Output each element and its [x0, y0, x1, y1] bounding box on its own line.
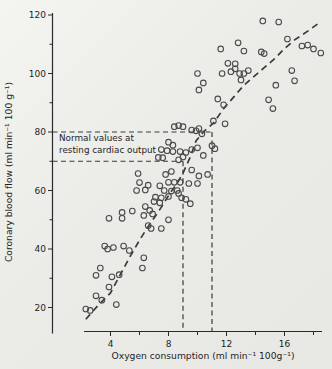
y-tick-label: 120 — [29, 10, 46, 20]
data-point — [141, 255, 147, 261]
data-point — [299, 43, 305, 49]
y-tick-label: 100 — [29, 69, 46, 79]
data-point — [106, 284, 112, 290]
data-point — [235, 40, 241, 46]
data-point — [305, 42, 311, 48]
data-point — [273, 82, 279, 88]
data-point — [201, 80, 207, 86]
data-point — [260, 18, 266, 24]
data-point — [189, 167, 195, 173]
x-tick-label: 4 — [108, 339, 114, 349]
data-point — [219, 71, 225, 77]
data-point — [222, 121, 228, 127]
scatter-chart: Normal values atresting cardiac output20… — [0, 0, 332, 369]
data-point — [266, 97, 272, 103]
data-point — [145, 182, 151, 188]
annotation-line-2: resting cardiac output — [59, 145, 157, 155]
x-tick-label: 8 — [166, 339, 172, 349]
data-point — [246, 68, 252, 74]
data-point — [130, 208, 136, 214]
data-points — [83, 18, 324, 313]
data-point — [196, 87, 202, 93]
data-point — [159, 195, 165, 201]
data-point — [238, 77, 244, 83]
data-point — [186, 181, 192, 187]
data-point — [289, 68, 295, 74]
data-point — [119, 210, 125, 216]
data-point — [164, 148, 170, 154]
data-point — [166, 180, 172, 186]
y-tick-label: 40 — [35, 244, 47, 254]
data-point — [106, 216, 112, 222]
data-point — [163, 172, 169, 178]
data-point — [93, 293, 99, 299]
data-point — [318, 50, 324, 56]
data-point — [157, 183, 163, 189]
figure: Normal values atresting cardiac output20… — [0, 0, 332, 369]
y-tick-label: 80 — [35, 127, 47, 137]
y-tick-label: 60 — [35, 186, 47, 196]
data-point — [98, 265, 104, 271]
data-point — [276, 19, 282, 25]
data-point — [119, 216, 125, 222]
data-point — [111, 245, 117, 251]
data-point — [170, 142, 176, 148]
data-point — [93, 273, 99, 279]
data-point — [270, 106, 276, 112]
data-point — [141, 213, 147, 219]
x-tick-label: 12 — [221, 339, 232, 349]
data-point — [195, 181, 201, 187]
data-point — [205, 172, 211, 178]
annotation-line-1: Normal values at — [59, 133, 134, 143]
data-point — [143, 204, 149, 210]
data-point — [201, 153, 207, 159]
data-point — [127, 248, 133, 254]
data-point — [121, 243, 127, 249]
data-point — [170, 149, 176, 155]
data-point — [241, 48, 247, 54]
data-point — [134, 188, 140, 194]
data-point — [292, 78, 298, 84]
y-axis-title: Coronary blood flow (ml min⁻¹ 100 g⁻¹) — [3, 82, 14, 262]
data-point — [177, 149, 183, 155]
data-point — [188, 201, 194, 207]
data-point — [218, 46, 224, 52]
y-tick-label: 20 — [35, 303, 47, 313]
data-point — [285, 36, 291, 42]
x-tick-label: 16 — [279, 339, 291, 349]
data-point — [215, 96, 221, 102]
data-point — [195, 145, 201, 151]
data-point — [195, 71, 201, 77]
data-point — [159, 147, 165, 153]
data-point — [221, 102, 227, 108]
data-point — [166, 217, 172, 223]
x-axis-title: Oxygen consumption (ml min⁻¹ 100g⁻¹) — [111, 350, 294, 361]
data-point — [114, 302, 120, 308]
data-point — [169, 169, 175, 175]
data-point — [140, 265, 146, 271]
data-point — [159, 226, 165, 232]
data-point — [172, 180, 178, 186]
data-point — [225, 61, 231, 67]
data-point — [137, 180, 143, 186]
trend-curve — [86, 24, 318, 319]
data-point — [196, 173, 202, 179]
data-point — [135, 171, 141, 177]
data-point — [311, 46, 317, 52]
data-point — [183, 150, 189, 156]
data-point — [161, 188, 167, 194]
data-point — [109, 274, 115, 280]
